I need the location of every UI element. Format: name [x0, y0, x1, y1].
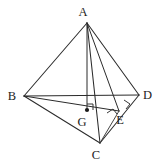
- segment-AD: [87, 23, 139, 95]
- segment-AB: [24, 23, 87, 96]
- vertex-label-C: C: [92, 148, 100, 162]
- segment-BC: [24, 96, 100, 143]
- geometry-diagram: A B C D E G: [0, 0, 155, 164]
- segment-BE: [24, 96, 119, 111]
- point-dot-G: [85, 108, 89, 112]
- vertex-label-B: B: [8, 89, 16, 103]
- segment-BD: [24, 95, 139, 96]
- vertex-label-D: D: [143, 88, 152, 102]
- geometry-figure-container: A B C D E G: [0, 0, 155, 164]
- vertex-label-A: A: [78, 5, 87, 19]
- vertex-label-E: E: [116, 113, 124, 127]
- vertex-label-G: G: [77, 115, 86, 129]
